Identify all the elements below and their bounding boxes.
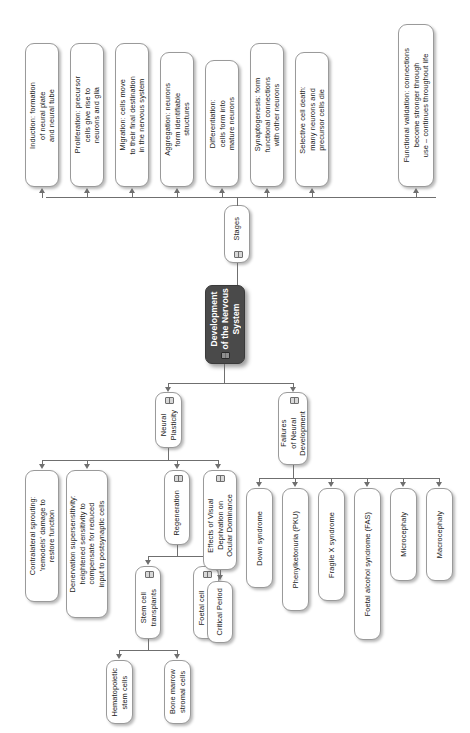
node-failure-3-label: Fragile X syndrome (327, 512, 337, 578)
node-stage-4-label: Aggregation: neurons form identifiable s… (163, 83, 192, 156)
arrow-fl-6 (436, 482, 442, 487)
node-stem-cell-transplants[interactable]: Stem cell transplants (135, 566, 161, 639)
arrow-pl-3 (174, 464, 180, 469)
book-icon (216, 475, 225, 482)
node-failure-6-label: Macrocephaly (435, 511, 445, 558)
connector-stage-2 (87, 193, 88, 198)
arrow-critical-period (217, 575, 223, 580)
connector-stage-1 (42, 193, 43, 198)
node-failure-4-label: Foetal alcohol syndrome (FAS) (363, 512, 373, 616)
node-stage-1-label: Induction: formation of neural plate and… (28, 82, 57, 149)
node-stage-7[interactable]: Selective cell death: many neurons and p… (295, 52, 329, 187)
connector-failures-down (293, 465, 294, 478)
connector-regeneration-down (177, 545, 178, 556)
connector-stage-6 (267, 193, 268, 198)
connector-stage-4 (177, 193, 178, 198)
node-failures-label: Failures of Neural Development (279, 411, 308, 456)
book-icon (290, 397, 299, 404)
node-failure-1-label: Down syndrome (255, 511, 265, 566)
node-stage-8[interactable]: Functional validation: connections becom… (398, 24, 434, 187)
node-stage-2[interactable]: Proliferation: precursor cells give rise… (70, 43, 104, 187)
arrow-fl-1 (256, 482, 262, 487)
node-failure-1[interactable]: Down syndrome (246, 488, 273, 588)
node-bone-marrow-stromal-cells-label: Bone marrow stromal cells (168, 669, 187, 714)
arrow-sc-2 (174, 654, 180, 659)
node-visual-deprivation[interactable]: Effects of Visual Deprivation on Ocular … (203, 470, 237, 570)
node-failure-2-label: Phenylketonuria (PKU) (291, 511, 301, 588)
node-stage-5[interactable]: Differentiation: cells form into mature … (205, 60, 239, 187)
mindmap-canvas: Stages Induction: formation of neural pl… (0, 0, 470, 733)
node-regeneration[interactable]: Regeneration (164, 470, 190, 545)
node-stage-2-label: Proliferation: precursor cells give rise… (73, 76, 102, 153)
book-icon (174, 475, 183, 482)
connector-stage-3 (132, 193, 133, 198)
book-icon (165, 397, 174, 404)
node-neural-plasticity-label: Neural Plasticity (159, 410, 178, 440)
node-regeneration-label: Regeneration (172, 490, 182, 536)
regeneration-bus (148, 556, 206, 557)
node-stages[interactable]: Stages (224, 205, 250, 263)
node-failure-3[interactable]: Fragile X syndrome (318, 488, 345, 601)
node-visual-deprivation-label: Effects of Visual Deprivation on Ocular … (206, 494, 235, 557)
node-hematopoietic-stem-cells-label: Hematopoietic stem cells (110, 668, 129, 717)
connector-stage-5 (222, 193, 223, 198)
book-icon (145, 571, 154, 578)
node-root-label: Development of the Nervous System (209, 288, 242, 350)
node-failure-6[interactable]: Macrocephaly (426, 488, 453, 581)
node-bone-marrow-stromal-cells[interactable]: Bone marrow stromal cells (164, 660, 191, 724)
node-neural-plasticity[interactable]: Neural Plasticity (155, 392, 182, 448)
arrow-pl-1 (39, 464, 45, 469)
arrow-fl-4 (364, 482, 370, 487)
node-failure-5[interactable]: Microcephaly (390, 488, 417, 581)
connector-root-down (224, 364, 225, 383)
connector-stage-7 (312, 193, 313, 198)
node-stem-cell-transplants-label: Stem cell transplants (139, 589, 158, 626)
main-bus (168, 383, 293, 384)
node-stage-1[interactable]: Induction: formation of neural plate and… (25, 43, 59, 187)
node-root[interactable]: Development of the Nervous System (205, 285, 245, 364)
node-stage-3-label: Migration: cells move to their final des… (118, 76, 147, 155)
node-failure-5-label: Microcephaly (399, 512, 409, 557)
node-failure-4[interactable]: Foetal alcohol syndrome (FAS) (354, 488, 381, 640)
arrow-reg-1 (145, 560, 151, 565)
node-hematopoietic-stem-cells[interactable]: Hematopoietic stem cells (106, 660, 133, 724)
node-stage-6-label: Synaptogenesis: form functional connecti… (253, 77, 282, 152)
node-plasticity-1[interactable]: Contralateral sprouting: 'remodels' dama… (25, 470, 59, 602)
node-stage-8-label: Functional validation: connections becom… (402, 48, 431, 162)
node-stage-5-label: Differentiation: cells form into mature … (208, 97, 237, 150)
node-stage-6[interactable]: Synaptogenesis: form functional connecti… (250, 43, 284, 187)
plasticity-bus (42, 460, 218, 461)
arrow-fl-5 (400, 482, 406, 487)
failures-bus (259, 478, 439, 479)
node-critical-period[interactable]: Critical Period (207, 581, 233, 643)
arrow-fl-2 (292, 482, 298, 487)
node-stage-7-label: Selective cell death: many neurons and p… (298, 86, 327, 154)
connector-plasticity-down (168, 448, 169, 460)
connector-stemcell-down (148, 639, 149, 650)
arrow-fl-3 (328, 482, 334, 487)
stages-spine (46, 197, 436, 198)
node-stage-3[interactable]: Migration: cells move to their final des… (115, 43, 149, 187)
connector-stage-8 (416, 193, 417, 198)
arrow-pl-2 (84, 464, 90, 469)
connector-stages-down (237, 263, 238, 285)
node-critical-period-label: Critical Period (215, 588, 225, 636)
book-icon (203, 571, 212, 578)
book-icon (221, 352, 230, 359)
arrow-sc-1 (116, 654, 122, 659)
stemcell-bus (119, 650, 177, 651)
arrow-pl-4 (215, 464, 221, 469)
node-failure-2[interactable]: Phenylketonuria (PKU) (282, 488, 309, 611)
node-plasticity-2-label: Denervation supersensitivity: heightened… (68, 495, 106, 592)
connector-stages-up (237, 197, 238, 206)
node-plasticity-2[interactable]: Denervation supersensitivity: heightened… (66, 470, 108, 618)
node-failures[interactable]: Failures of Neural Development (278, 392, 308, 465)
book-icon (234, 251, 243, 258)
node-plasticity-1-label: Contralateral sprouting: 'remodels' dama… (28, 496, 57, 575)
node-stage-4[interactable]: Aggregation: neurons form identifiable s… (160, 52, 194, 187)
node-stages-label: Stages (232, 217, 242, 241)
